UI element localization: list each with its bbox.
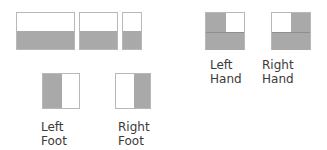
- left-hand-bottom-fill: [206, 32, 244, 50]
- left-hand-top-left-fill: [206, 13, 226, 32]
- right-hand-label-line2: Hand: [262, 72, 294, 86]
- right-hand-bottom-fill: [272, 32, 310, 50]
- right-hand-box: [271, 12, 311, 50]
- right-hand-top-right-fill: [291, 13, 310, 32]
- wide-box: [16, 12, 75, 50]
- right-foot-box: [115, 73, 151, 109]
- right-foot-label-line2: Foot: [118, 134, 144, 148]
- left-foot-label-line2: Foot: [41, 134, 67, 148]
- wide-box-bottom-fill: [17, 31, 74, 49]
- right-hand-label-line1: Right: [262, 58, 294, 72]
- left-foot-left-fill: [43, 74, 62, 108]
- medium-box: [79, 12, 118, 50]
- medium-box-bottom-fill: [80, 31, 117, 49]
- left-foot-label-line1: Left: [41, 120, 64, 134]
- left-hand-label-line2: Hand: [210, 72, 242, 86]
- left-foot-box: [42, 73, 80, 109]
- left-hand-box: [205, 12, 245, 50]
- left-hand-label-line1: Left: [210, 58, 233, 72]
- narrow-box: [122, 12, 142, 50]
- right-foot-right-fill: [134, 74, 150, 108]
- right-foot-label-line1: Right: [118, 120, 150, 134]
- narrow-box-bottom-fill: [123, 31, 141, 49]
